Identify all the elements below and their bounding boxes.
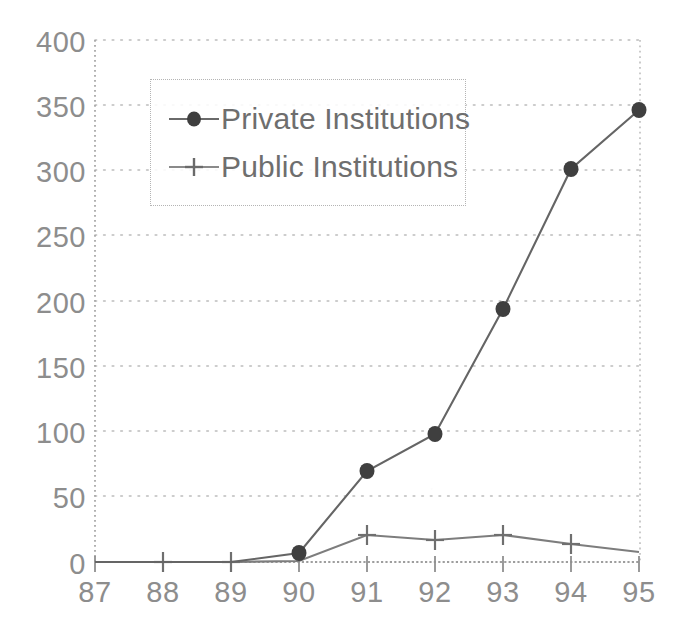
x-tick-label-95: 95: [607, 576, 671, 609]
filled-diamond-marker-icon: [167, 108, 221, 130]
plus-marker-icon: [167, 156, 221, 178]
x-tick-label-92: 92: [403, 576, 467, 609]
x-tick-label-88: 88: [131, 576, 195, 609]
y-tick-label-400: 400: [4, 26, 86, 59]
legend-item-public-institutions: Public Institutions: [167, 150, 458, 184]
y-tick-label-100: 100: [4, 417, 86, 450]
y-tick-label-350: 350: [4, 91, 86, 124]
x-tick-label-93: 93: [471, 576, 535, 609]
line-chart: 400 350 300 250 200 150 100 50 0 87 88 8…: [0, 0, 685, 635]
x-tick-label-89: 89: [199, 576, 263, 609]
y-tick-label-200: 200: [4, 287, 86, 320]
legend-item-private-institutions: Private Institutions: [167, 102, 470, 136]
y-tick-label-300: 300: [4, 156, 86, 189]
x-tick-label-90: 90: [267, 576, 331, 609]
x-tick-label-94: 94: [539, 576, 603, 609]
x-tick-label-91: 91: [335, 576, 399, 609]
legend-label-private-institutions: Private Institutions: [221, 102, 470, 136]
y-tick-label-250: 250: [4, 221, 86, 254]
chart-legend: Private Institutions Public Institutions: [150, 79, 466, 206]
y-tick-label-150: 150: [4, 352, 86, 385]
x-axis-ticks: [95, 556, 639, 572]
legend-label-public-institutions: Public Institutions: [221, 150, 458, 184]
x-tick-label-87: 87: [63, 576, 127, 609]
y-tick-label-50: 50: [4, 482, 86, 515]
